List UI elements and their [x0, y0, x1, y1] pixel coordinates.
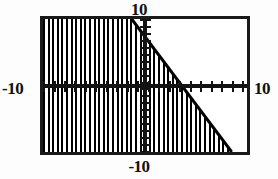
y-axis-min-label: -10 [0, 158, 278, 175]
y-axis [143, 19, 147, 152]
x-axis-min-label: -10 [2, 80, 40, 97]
plot-frame [40, 16, 250, 155]
graph-screenshot: 10 -10 10 -10 [0, 0, 278, 179]
plot-area [43, 19, 247, 152]
x-axis-max-label: 10 [254, 80, 278, 97]
